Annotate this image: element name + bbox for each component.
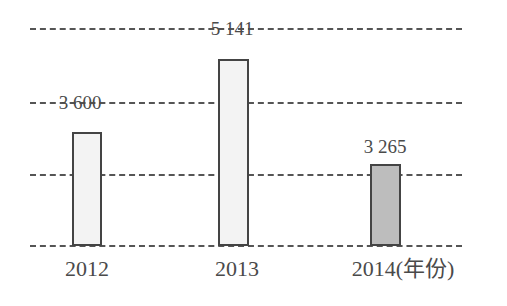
value-label-2014: 3 265: [364, 137, 407, 156]
x-tick-2012: 2012: [65, 258, 109, 280]
x-tick-2013: 2013: [215, 258, 259, 280]
value-label-2013: 5 141: [211, 19, 254, 38]
value-label-2012: 3 600: [59, 93, 102, 112]
x-tick-2014: 2014(年份): [352, 258, 455, 280]
bar-2013: [218, 59, 249, 246]
bar-2012: [72, 132, 102, 246]
bar-2014: [370, 164, 401, 246]
